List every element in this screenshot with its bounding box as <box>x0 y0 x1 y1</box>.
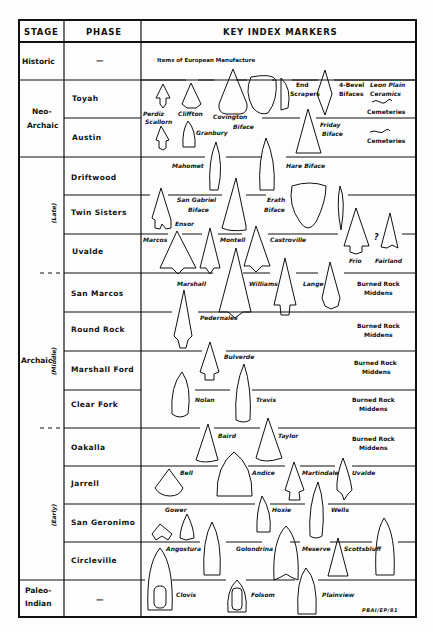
end-scraper-side <box>281 78 289 110</box>
marker-marshall: Marshall <box>177 281 206 287</box>
stage-neo-archaic-line1: Neo- <box>32 108 52 116</box>
marker-bulverde: Bulverde <box>224 354 254 360</box>
marker-burned-rock-2a: Burned Rock <box>357 323 400 329</box>
marker-burned-rock-1b: Middens <box>364 290 393 296</box>
credit-text: PBAI/EP/81 <box>362 608 398 613</box>
erath-biface <box>291 183 326 228</box>
marker-folsom: Folsom <box>251 592 275 598</box>
marker-cliffton: Cliffton <box>178 111 203 117</box>
marker-fairland: Fairland <box>375 258 402 264</box>
chronology-chart: STAGE PHASE KEY INDEX MARKERS Historic N… <box>0 0 433 632</box>
marker-burned-rock-1a: Burned Rock <box>357 281 400 287</box>
golondrina-point <box>274 526 299 580</box>
marker-hare-biface: Hare Biface <box>286 163 325 169</box>
marker-erath-1: Erath <box>267 197 285 203</box>
marker-burned-rock-4b: Middens <box>359 406 388 412</box>
stage-historic: Historic <box>22 58 55 66</box>
marker-baird: Baird <box>218 433 236 439</box>
hoxie-point <box>257 496 270 532</box>
gower-point <box>152 524 172 540</box>
subperiod-late: (Late) <box>51 203 57 223</box>
stage-neo-archaic-line2: Archaic <box>27 122 58 130</box>
marker-burned-rock-3a: Burned Rock <box>354 360 397 366</box>
phase-austin: Austin <box>72 134 102 142</box>
wells-point <box>310 482 324 538</box>
phase-driftwood: Driftwood <box>71 174 117 182</box>
marker-san-gabriel-1: San Gabriel <box>177 197 216 203</box>
marker-erath-2: Biface <box>264 207 285 213</box>
pedernales-point <box>174 290 192 348</box>
phase-san-marcos: San Marcos <box>71 290 124 298</box>
stage-paleo-indian-line1: Paleo- <box>25 587 51 595</box>
marker-scottsbluff: Scottsbluff <box>344 546 381 552</box>
taylor-point <box>256 418 282 461</box>
marker-martindale: Martindale <box>302 470 339 476</box>
marker-meserve: Meserve <box>302 546 331 552</box>
marker-angostura: Angostura <box>166 546 201 552</box>
marker-san-gabriel-2: Biface <box>188 207 209 213</box>
phase-oakalla: Oakalla <box>71 444 106 452</box>
marker-montell: Montell <box>220 237 245 243</box>
marker-gower: Gower <box>165 507 187 513</box>
marker-pedernales: Pedernales <box>200 315 238 321</box>
hare-biface <box>260 138 275 190</box>
marker-burned-rock-4a: Burned Rock <box>352 397 395 403</box>
marker-leon-plain-2: Ceramics <box>370 91 401 97</box>
angostura-point <box>204 522 221 575</box>
baird-point <box>196 424 218 462</box>
marker-marcos: Marcos <box>143 237 167 243</box>
marker-bell: Bell <box>180 470 193 476</box>
header-phase: PHASE <box>86 28 122 37</box>
artifact-drawings <box>148 69 398 614</box>
san-geronimo-point <box>180 514 194 540</box>
scraper-side <box>338 186 343 230</box>
bell-point <box>155 469 183 496</box>
subperiod-middle: (Middle) <box>51 347 57 375</box>
bulverde-point <box>200 342 219 380</box>
montell-point <box>200 228 220 274</box>
marker-burned-rock-2b: Middens <box>364 332 393 338</box>
travis-point <box>236 364 251 422</box>
phase-round-rock: Round Rock <box>71 326 125 334</box>
cliffton-point <box>182 83 201 108</box>
marker-lange: Lange <box>303 281 324 287</box>
marker-granbury: Granbury <box>196 130 228 136</box>
phase-circleville: Circleville <box>71 557 117 565</box>
marker-cemeteries-1: Cemeteries <box>367 109 405 115</box>
marker-covington: Covington <box>213 114 247 120</box>
stage-archaic: Archaic <box>21 357 52 365</box>
nolan-point <box>172 372 189 417</box>
end-scraper <box>248 76 276 114</box>
marker-european-manufacture: Items of European Manufacture <box>157 58 255 64</box>
cemeteries-icon <box>370 129 390 132</box>
uvalde-point <box>337 458 352 500</box>
marker-question: ? <box>374 234 379 242</box>
granbury-point <box>183 121 195 147</box>
marker-friday-2: Biface <box>322 131 343 137</box>
marker-leon-plain-1: Leon Plain <box>370 82 405 88</box>
marker-ensor: Ensor <box>175 221 194 227</box>
plainview-point <box>298 568 317 614</box>
marker-burned-rock-5b: Middens <box>359 445 388 451</box>
covington-biface <box>219 69 247 114</box>
san-gabriel-biface <box>222 178 246 231</box>
marker-wells: Wells <box>331 507 349 513</box>
subperiod-early: (Early) <box>51 504 57 527</box>
clovis-point <box>148 548 173 610</box>
perdiz-point <box>156 84 170 108</box>
phase-marshall-ford: Marshall Ford <box>71 366 134 374</box>
folsom-flute <box>232 588 242 610</box>
marker-frio: Frio <box>349 258 362 264</box>
phase-uvalde: Uvalde <box>72 248 103 256</box>
marker-covington-biface: Biface <box>233 124 254 130</box>
marker-burned-rock-3b: Middens <box>362 369 391 375</box>
marker-cemeteries-2: Cemeteries <box>367 138 405 144</box>
marker-4-bevel-2: Bifaces <box>339 91 364 97</box>
andice-point <box>217 452 252 496</box>
mahomet-point <box>210 142 221 190</box>
marker-plainview: Plainview <box>322 592 354 598</box>
fairland-point <box>381 213 398 248</box>
marker-4-bevel-1: 4-Bevel <box>339 82 364 88</box>
folsom-point <box>228 580 247 612</box>
marker-end-scrapers-1: End <box>296 82 309 88</box>
